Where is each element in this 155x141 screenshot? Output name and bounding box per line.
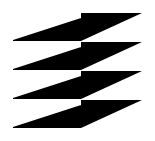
- logo-canvas: [0, 0, 155, 141]
- logo-mark: [0, 0, 155, 141]
